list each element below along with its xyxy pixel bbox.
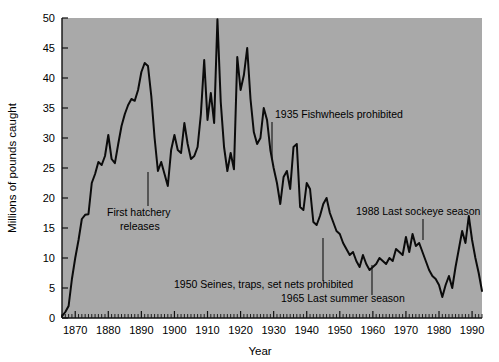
salmon-catch-line-chart: 05101520253035404550 1870188018901900191… [0,0,499,362]
annotation-fishwheels-prohibited: 1935 Fishwheels prohibited [275,108,403,120]
y-tick-label-30: 30 [43,132,55,144]
x-tick-label-1930: 1930 [261,324,285,336]
x-tick-label-1900: 1900 [162,324,186,336]
y-axis-title: Millions of pounds caught [6,102,18,233]
x-tick-label-1880: 1880 [96,324,120,336]
x-tick-label-1870: 1870 [63,324,87,336]
annotation-last-summer-season: 1965 Last summer season [281,292,405,304]
annotation-first-hatchery-releases-line2: releases [120,220,160,232]
x-tick-label-1940: 1940 [294,324,318,336]
x-tick-label-1920: 1920 [228,324,252,336]
x-tick-label-1910: 1910 [195,324,219,336]
x-tick-label-1990: 1990 [460,324,484,336]
y-tick-label-50: 50 [43,12,55,24]
y-tick-label-35: 35 [43,102,55,114]
annotation-last-sockeye-season: 1988 Last sockeye season [356,205,480,217]
y-tick-label-5: 5 [49,282,55,294]
y-tick-label-40: 40 [43,72,55,84]
x-axis-title: Year [248,345,271,357]
y-tick-label-20: 20 [43,192,55,204]
y-tick-label-25: 25 [43,162,55,174]
x-tick-label-1960: 1960 [361,324,385,336]
y-tick-label-0: 0 [49,312,55,324]
x-tick-label-1980: 1980 [427,324,451,336]
chart-figure: 05101520253035404550 1870188018901900191… [0,0,499,362]
y-tick-label-15: 15 [43,222,55,234]
plot-area-background [62,18,482,318]
annotation-first-hatchery-releases: First hatchery [107,206,171,218]
x-tick-label-1890: 1890 [129,324,153,336]
y-tick-label-10: 10 [43,252,55,264]
x-tick-label-1950: 1950 [328,324,352,336]
x-tick-label-1970: 1970 [394,324,418,336]
annotation-seines-traps-set-nets-prohibited: 1950 Seines, traps, set nets prohibited [174,278,353,290]
y-tick-label-45: 45 [43,42,55,54]
